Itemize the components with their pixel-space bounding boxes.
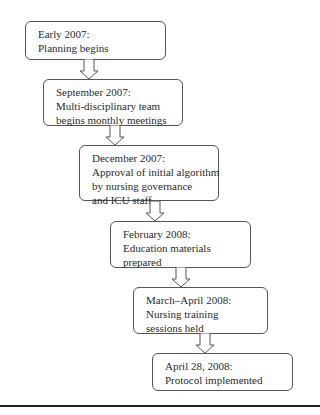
step-5-date: March–April 2008: — [146, 293, 259, 307]
down-arrow-icon — [106, 125, 124, 145]
step-1-box: Early 2007: Planning begins — [25, 21, 166, 60]
down-arrow-icon — [146, 201, 164, 221]
step-6-box: April 28, 2008: Protocol implemented — [152, 353, 293, 391]
bottom-rule-divider — [0, 405, 320, 407]
step-5-box: March–April 2008: Nursing training sessi… — [133, 287, 268, 334]
down-arrow-icon — [196, 333, 214, 353]
step-4-date: February 2008: — [123, 227, 242, 241]
step-1-date: Early 2007: — [38, 27, 157, 41]
step-3-box: December 2007: Approval of initial algor… — [79, 145, 219, 201]
step-5-text-line-1: Nursing training — [146, 307, 259, 321]
step-2-date: September 2007: — [56, 85, 174, 99]
step-2-box: September 2007: Multi-disciplinary team … — [43, 79, 183, 126]
step-4-text-line-1: Education materials — [123, 241, 242, 255]
step-2-text-line-1: Multi-disciplinary team — [56, 99, 174, 113]
step-6-date: April 28, 2008: — [165, 359, 284, 373]
step-3-text-line-1: Approval of initial algorithm — [92, 165, 210, 179]
step-1-text-line-1: Planning begins — [38, 41, 157, 55]
step-3-text-line-2: by nursing governance — [92, 179, 210, 193]
down-arrow-icon — [172, 267, 190, 287]
step-4-box: February 2008: Education materials prepa… — [110, 221, 251, 268]
step-6-text-line-1: Protocol implemented — [165, 373, 284, 387]
down-arrow-icon — [80, 59, 98, 79]
step-3-date: December 2007: — [92, 151, 210, 165]
